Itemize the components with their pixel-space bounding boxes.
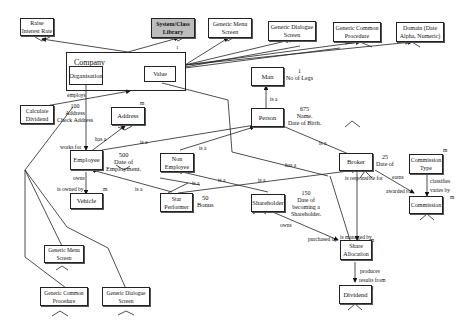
generic-dialogue-screen-bottom-label: Generic Dialogue Screen — [103, 289, 149, 305]
system-class-library-box[interactable]: System/Class Library — [151, 18, 195, 38]
organisation-label: Organisation — [69, 72, 102, 80]
non-employee-label: Non Employee — [161, 155, 193, 171]
shareholder-box[interactable]: Shareholder — [251, 194, 285, 212]
share-allocation-label: Share Allocation — [341, 242, 371, 258]
is-responsible-for-label: is responsible for — [345, 175, 383, 181]
is-owned-by-label: is owned by — [57, 186, 84, 192]
classifies-label: classifies — [430, 178, 450, 184]
raise-interest-rate-label: Raise Interest Rate — [21, 19, 53, 35]
star-performer-box[interactable]: Star Performer — [160, 193, 193, 212]
generic-common-procedure-top-box[interactable]: Generic Common Procedure — [333, 22, 381, 42]
man-note: 1 No of Legs — [286, 68, 313, 82]
person-box[interactable]: Person — [251, 108, 284, 127]
is-a-person-broker-label: is a — [319, 140, 327, 146]
employee-note: 500 Date of Employment. — [106, 151, 141, 172]
owns-share-label: owns — [280, 222, 292, 228]
commission-box[interactable]: Commission — [409, 196, 443, 214]
is-a-star-label: is a — [135, 186, 143, 192]
earns-label: earns — [392, 174, 404, 180]
vehicle-label: Vehicle — [77, 197, 97, 205]
calculate-dividend-box[interactable]: Calculate Dividend — [20, 105, 54, 124]
has-a-broker-label: has a — [285, 162, 296, 168]
dividend-label: Dividend — [343, 291, 367, 299]
commission-type-label: Commission Type — [410, 156, 442, 172]
is-a-shareholder-label-2: is a — [218, 177, 226, 183]
value-box[interactable]: Value — [144, 66, 176, 82]
is-a-broker-label: is a — [258, 177, 266, 183]
produces-label: produces — [360, 268, 380, 274]
shareholder-label: Shareholder — [252, 199, 283, 207]
raise-interest-rate-box[interactable]: Raise Interest Rate — [20, 18, 54, 36]
is-a-non-employee-label: is a — [199, 145, 207, 151]
is-a-employee-person-label: is a — [140, 139, 148, 145]
dividend-box[interactable]: Dividend — [339, 285, 372, 304]
system-class-library-label: System/Class Library — [152, 20, 194, 36]
domain-label: Domain (Date Alpha, Numeric) — [397, 24, 443, 40]
value-label: Value — [153, 70, 167, 78]
generic-dialogue-screen-bottom-box[interactable]: Generic Dialogue Screen — [102, 287, 150, 306]
diagram-canvas: Raise Interest Rate System/Class Library… — [0, 0, 466, 330]
address-box[interactable]: Address — [111, 107, 145, 125]
has-a-label: has a — [95, 136, 106, 142]
employs-label: employs — [67, 92, 86, 98]
vehicle-box[interactable]: Vehicle — [70, 193, 103, 209]
shareholder-note: 150 Date of becoming a Shareholder. — [291, 190, 321, 218]
generic-menu-screen-bottom-label: Generic Menu Screen — [45, 246, 83, 262]
is-a-shareholder-label-1: is a — [192, 180, 200, 186]
owns-label: owns — [73, 175, 85, 181]
address-label: Address — [117, 112, 138, 120]
star-performer-note: 50 Bonus — [197, 194, 214, 208]
person-note: 675 Name. Date of Birth. — [288, 106, 321, 127]
employee-label: Employee — [73, 156, 99, 164]
generic-common-procedure-bottom-box[interactable]: Generic Common Procedure — [40, 287, 88, 306]
is-a-man-label: is a — [270, 96, 278, 102]
generic-common-procedure-top-label: Generic Common Procedure — [334, 24, 380, 40]
employee-box[interactable]: Employee — [70, 150, 103, 170]
person-label: Person — [259, 114, 277, 122]
commission-type-box[interactable]: Commission Type — [409, 154, 443, 174]
organisation-box[interactable]: Organisation — [69, 66, 103, 85]
results-from-label: results from — [359, 277, 385, 283]
generic-menu-screen-top-box[interactable]: Generic Menu Screen — [208, 18, 252, 38]
generic-menu-screen-bottom-box[interactable]: Generic Menu Screen — [44, 245, 84, 263]
generic-dialogue-screen-top-label: Generic Dialogue Screen — [269, 23, 315, 39]
purchased-by-label: purchased by — [308, 236, 337, 242]
man-label: Man — [262, 73, 274, 81]
broker-box[interactable]: Broker — [339, 153, 373, 171]
broker-note: 25 Date of — [376, 154, 394, 168]
cardinality-one: 1 — [176, 44, 179, 51]
generic-dialogue-screen-top-box[interactable]: Generic Dialogue Screen — [268, 21, 316, 41]
m-commtype-label: m — [443, 147, 447, 153]
m-commission-label: m — [450, 194, 454, 200]
m-vehicle-label: m — [103, 186, 107, 192]
commission-label: Commission — [411, 201, 441, 209]
generic-menu-screen-top-label: Generic Menu Screen — [209, 20, 251, 36]
share-allocation-box[interactable]: Share Allocation — [340, 240, 372, 260]
employee-address-note: 100 Address Check Address — [57, 103, 93, 124]
generic-common-procedure-bottom-label: Generic Common Procedure — [41, 289, 87, 305]
m-address-label: m — [140, 100, 144, 106]
awarded-to-label: awarded to — [386, 188, 410, 194]
broker-label: Broker — [347, 158, 365, 166]
varies-by-label: varies by — [430, 187, 450, 193]
non-employee-box[interactable]: Non Employee — [160, 153, 194, 172]
domain-box[interactable]: Domain (Date Alpha, Numeric) — [396, 22, 444, 42]
calculate-dividend-label: Calculate Dividend — [21, 107, 53, 123]
man-box[interactable]: Man — [251, 67, 284, 86]
star-performer-label: Star Performer — [161, 195, 192, 211]
